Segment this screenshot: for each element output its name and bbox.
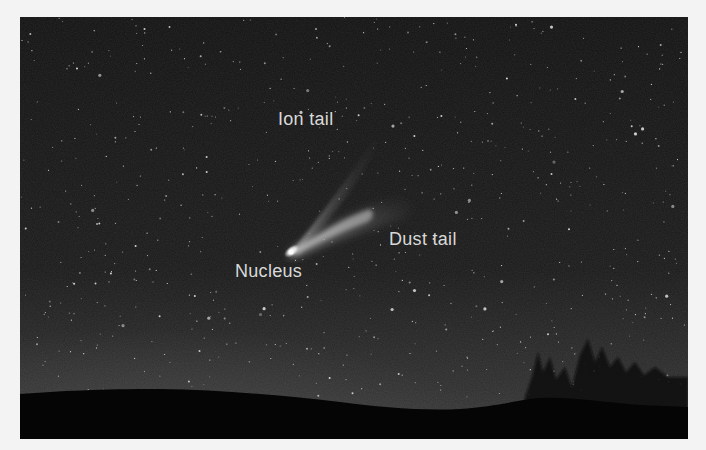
comet-photograph: Ion tail Dust tail Nucleus — [20, 17, 688, 439]
label-dust-tail: Dust tail — [389, 230, 457, 248]
night-sky-scene — [20, 17, 688, 439]
label-nucleus: Nucleus — [235, 262, 302, 280]
label-ion-tail: Ion tail — [278, 110, 333, 128]
